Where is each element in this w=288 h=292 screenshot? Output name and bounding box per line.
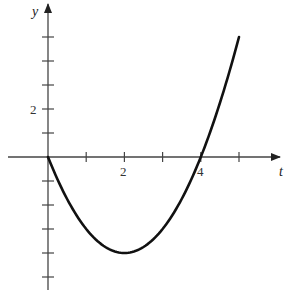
x-tick-label-2: 2 — [120, 164, 127, 179]
x-axis-label: t — [279, 164, 284, 179]
y-tick-label-2: 2 — [30, 102, 37, 117]
y-axis-label: y — [30, 4, 39, 19]
curve-line — [48, 37, 239, 253]
chart: 2 4 2 t y — [0, 0, 288, 292]
